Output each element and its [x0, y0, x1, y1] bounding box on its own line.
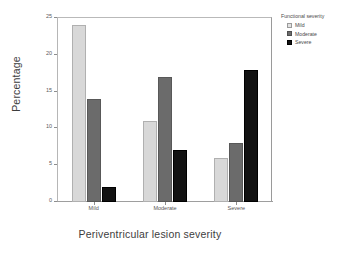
y-axis-tick-mark [54, 17, 57, 18]
x-axis-tick-label: Severe [206, 205, 266, 211]
x-axis-tick-label: Moderate [135, 205, 195, 211]
legend-item-label: Moderate [295, 31, 317, 37]
legend-items: MildModerateSevere [281, 22, 355, 45]
y-axis-tick-label: 15 [46, 86, 52, 95]
legend-item[interactable]: Severe [287, 39, 355, 45]
y-axis-tick-mark [54, 164, 57, 165]
y-axis-title: Percentage [10, 4, 22, 164]
y-axis-tick-label: 0 [49, 196, 52, 205]
y-axis: 0510152025 [37, 17, 57, 202]
bar-group [58, 18, 129, 202]
y-axis-tick: 0 [37, 201, 57, 202]
bar-group [201, 18, 272, 202]
bar [173, 150, 187, 202]
bar [87, 99, 101, 202]
x-axis-tick-label: Mild [64, 205, 124, 211]
bar [102, 187, 116, 202]
y-axis-tick: 25 [37, 17, 57, 18]
bar [158, 77, 172, 202]
legend-title: Functional severity [281, 13, 355, 19]
bar [143, 121, 157, 202]
bar-chart-figure: 0510152025 Percentage Periventricular le… [0, 0, 358, 253]
legend-swatch-icon [287, 40, 292, 45]
y-axis-tick-label: 10 [46, 122, 52, 131]
legend: Functional severity MildModerateSevere [281, 13, 355, 48]
y-axis-tick-label: 5 [49, 159, 52, 168]
y-axis-tick: 20 [37, 54, 57, 55]
y-axis-tick-label: 20 [46, 49, 52, 58]
y-axis-tick-mark [54, 54, 57, 55]
y-axis-tick-mark [54, 91, 57, 92]
bar-groups [58, 18, 272, 202]
bar-group [129, 18, 200, 202]
bar [72, 25, 86, 202]
bar [214, 158, 228, 202]
y-axis-tick: 5 [37, 164, 57, 165]
y-axis-tick: 10 [37, 127, 57, 128]
bar [229, 143, 243, 202]
bar [244, 70, 258, 202]
y-axis-tick-mark [54, 201, 57, 202]
y-axis-tick: 15 [37, 91, 57, 92]
y-axis-tick-label: 25 [46, 12, 52, 21]
y-axis-tick-mark [54, 127, 57, 128]
legend-swatch-icon [287, 23, 292, 28]
legend-item[interactable]: Moderate [287, 31, 355, 37]
x-axis-title: Periventricular lesion severity [0, 228, 300, 240]
legend-item-label: Severe [295, 39, 311, 45]
legend-item-label: Mild [295, 22, 305, 28]
legend-item[interactable]: Mild [287, 22, 355, 28]
legend-swatch-icon [287, 31, 292, 36]
